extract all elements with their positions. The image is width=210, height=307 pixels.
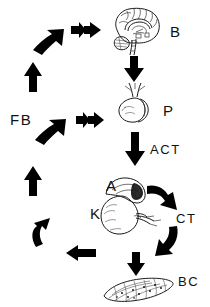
hpa-feedback-diagram: B P ACT	[0, 0, 210, 307]
bodycells-label: BC	[178, 275, 199, 288]
brain-node	[103, 4, 165, 56]
arrow-feedback-up-lower	[32, 218, 62, 248]
pituitary-label: P	[163, 103, 175, 118]
arrow-feedback-up-top	[23, 62, 43, 92]
brain-label: B	[170, 24, 182, 39]
pituitary-node	[113, 81, 159, 125]
bodycells-node	[100, 274, 176, 304]
arrow-feedback-up-mid	[23, 166, 43, 196]
adrenal-label: A	[106, 178, 118, 193]
feedback-label: FB	[10, 112, 32, 127]
ct-signal-label: CT	[176, 212, 197, 225]
body-cells-tissue-icon	[100, 274, 176, 304]
arrow-bodycells-to-left	[66, 244, 96, 262]
arrow-ct-to-bodycells	[148, 225, 180, 257]
arrow-ct-down-to-bodycells	[126, 252, 146, 276]
act-signal-label: ACT	[150, 143, 181, 156]
arrow-feedback-in-brain	[71, 22, 101, 39]
pituitary-gland-icon	[113, 81, 159, 125]
arrow-feedback-to-brain	[31, 28, 65, 56]
brain-sagittal-icon	[103, 4, 165, 56]
arrow-feedback-to-pituitary	[33, 118, 67, 146]
arrow-adrenal-to-ct	[146, 184, 180, 214]
arrow-feedback-in-pituitary	[76, 112, 104, 128]
arrow-brain-to-pituitary	[123, 56, 145, 82]
kidney-label: K	[90, 206, 102, 221]
arrow-pituitary-to-adrenal	[124, 132, 146, 166]
